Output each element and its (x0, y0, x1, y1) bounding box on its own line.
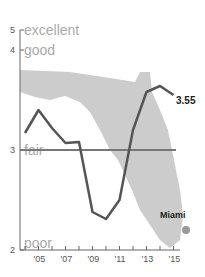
miami-label: Miami (160, 210, 186, 220)
svg-text:5: 5 (10, 25, 15, 35)
svg-text:'15: '15 (169, 254, 181, 264)
svg-text:'05: '05 (34, 254, 46, 264)
florida-map (20, 70, 183, 248)
svg-text:excellent: excellent (24, 22, 79, 38)
svg-text:'11: '11 (115, 254, 126, 264)
svg-text:4: 4 (10, 45, 15, 55)
svg-text:good: good (24, 42, 55, 58)
svg-text:2: 2 (10, 245, 15, 255)
miami-marker (182, 226, 190, 234)
svg-text:3: 3 (10, 145, 15, 155)
chart: 2poor3fair4good5excellent '05'07'09'11'1… (0, 0, 205, 277)
svg-text:'09: '09 (88, 254, 100, 264)
last-value-label: 3.55 (176, 95, 196, 106)
svg-text:'13: '13 (142, 254, 154, 264)
svg-text:'07: '07 (61, 254, 73, 264)
